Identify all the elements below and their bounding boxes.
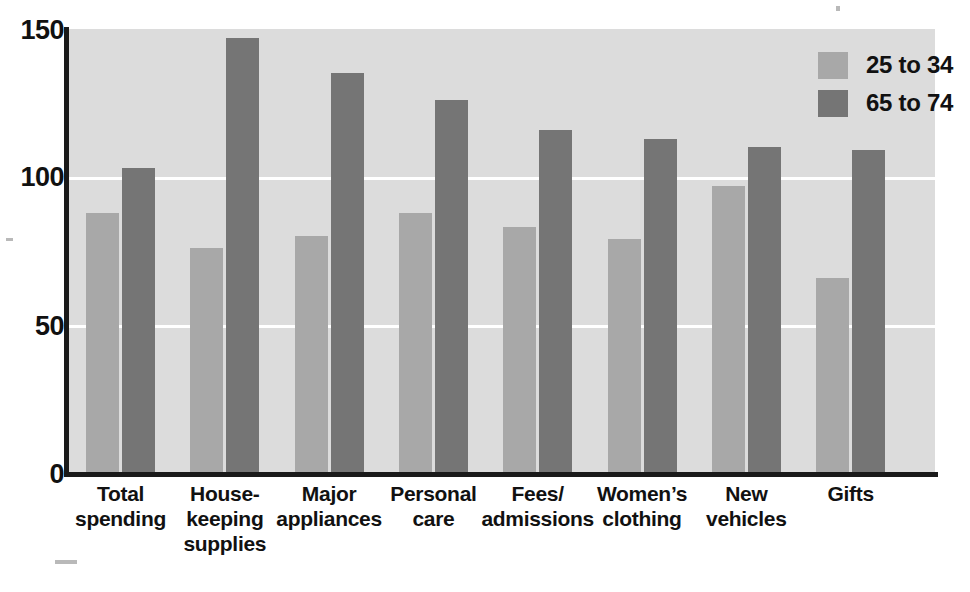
bar: [748, 147, 781, 473]
bar: [331, 73, 364, 473]
bar: [122, 168, 155, 473]
scan-artifact: [836, 6, 840, 11]
gridline-100: [68, 177, 935, 180]
y-tick-50: 50: [4, 311, 64, 342]
y-tick-150: 150: [4, 15, 64, 46]
chart-legend: 25 to 34 65 to 74: [818, 46, 953, 122]
legend-swatch-icon-65-to-74: [818, 90, 848, 117]
scan-artifact: [6, 238, 13, 241]
y-axis-line: [64, 27, 69, 477]
bar: [503, 227, 536, 473]
x-axis-labels: TotalspendingHouse-keepingsuppliesMajora…: [68, 481, 935, 581]
legend-label-65-to-74: 65 to 74: [866, 89, 953, 117]
bar: [226, 38, 259, 473]
bar: [399, 213, 432, 473]
bar: [712, 186, 745, 473]
bar: [539, 130, 572, 473]
y-tick-100: 100: [4, 162, 64, 193]
bar: [852, 150, 885, 473]
scan-artifact: [55, 560, 77, 564]
bar: [816, 278, 849, 473]
y-axis-labels: 150 100 50 0: [0, 0, 64, 592]
bar: [644, 139, 677, 473]
bar-chart: 150 100 50 0 TotalspendingHouse-keepings…: [0, 0, 970, 592]
legend-swatch-icon-25-to-34: [818, 52, 848, 79]
legend-label-25-to-34: 25 to 34: [866, 51, 953, 79]
x-axis-line: [64, 472, 938, 477]
legend-item-25-to-34: 25 to 34: [818, 46, 953, 84]
bar: [86, 213, 119, 473]
bar: [435, 100, 468, 473]
legend-item-65-to-74: 65 to 74: [818, 84, 953, 122]
x-axis-label: Gifts: [787, 481, 915, 506]
bar: [295, 236, 328, 473]
y-tick-0: 0: [4, 459, 64, 490]
bar: [190, 248, 223, 473]
plot-area: [68, 29, 935, 473]
bar: [608, 239, 641, 473]
